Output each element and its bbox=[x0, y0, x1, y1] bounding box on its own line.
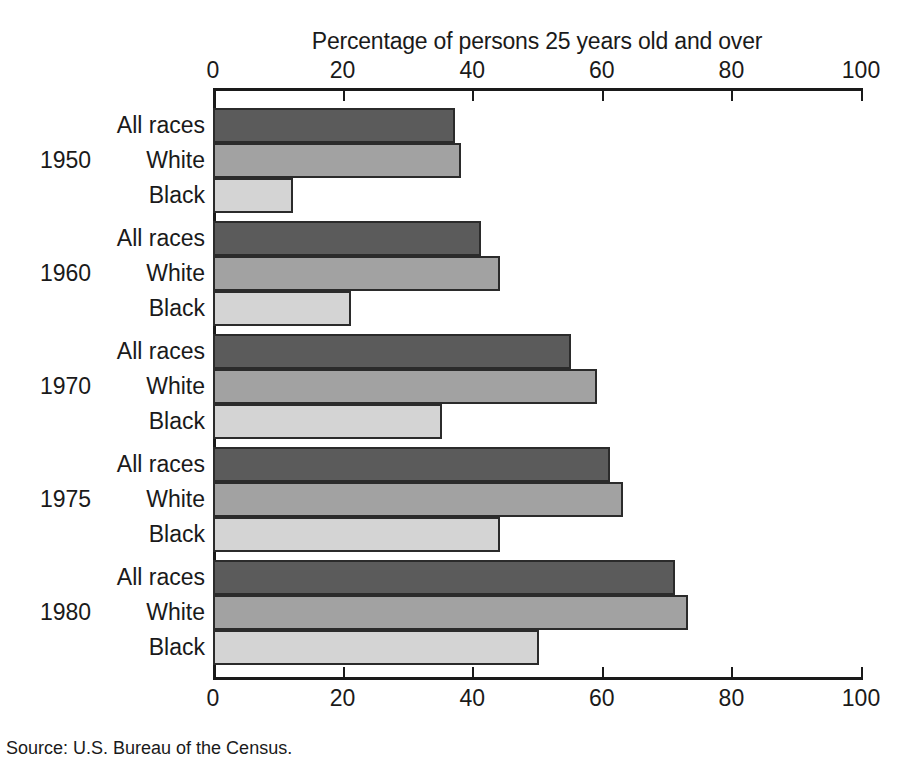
bar-1950-all bbox=[213, 108, 455, 143]
tickmark-bottom-100 bbox=[861, 667, 863, 680]
year-label-1970: 1970 bbox=[40, 373, 150, 400]
bar-1980-white bbox=[213, 595, 688, 630]
series-label-1960-all: All races bbox=[5, 225, 205, 252]
bar-1980-all bbox=[213, 560, 675, 595]
x-tick-label-bottom-0: 0 bbox=[207, 685, 220, 712]
axis-line-bottom bbox=[213, 677, 861, 680]
x-tick-label-top-80: 80 bbox=[719, 57, 745, 84]
x-tick-label-bottom-60: 60 bbox=[589, 685, 615, 712]
series-label-1950-all: All races bbox=[5, 112, 205, 139]
plot-area bbox=[213, 88, 861, 680]
year-label-1980: 1980 bbox=[40, 599, 150, 626]
year-label-1960: 1960 bbox=[40, 260, 150, 287]
tickmark-top-40 bbox=[472, 88, 474, 101]
x-tick-label-top-40: 40 bbox=[459, 57, 485, 84]
tickmark-top-80 bbox=[731, 88, 733, 101]
tickmark-top-60 bbox=[602, 88, 604, 101]
bar-1950-white bbox=[213, 143, 461, 178]
bar-1970-all bbox=[213, 334, 571, 369]
x-tick-label-bottom-20: 20 bbox=[330, 685, 356, 712]
bar-1950-black bbox=[213, 178, 293, 213]
bar-1970-black bbox=[213, 404, 442, 439]
tickmark-bottom-60 bbox=[602, 667, 604, 680]
source-note: Source: U.S. Bureau of the Census. bbox=[6, 738, 292, 759]
axis-line-top bbox=[213, 88, 861, 91]
bar-1970-white bbox=[213, 369, 597, 404]
x-tick-label-top-20: 20 bbox=[330, 57, 356, 84]
x-tick-label-top-0: 0 bbox=[207, 57, 220, 84]
bar-1975-all bbox=[213, 447, 610, 482]
series-label-1980-black: Black bbox=[5, 634, 205, 661]
tickmark-top-100 bbox=[861, 88, 863, 101]
bar-1975-black bbox=[213, 517, 500, 552]
x-axis-tick-labels-top: 020406080100 bbox=[0, 57, 920, 83]
bar-1960-all bbox=[213, 221, 481, 256]
bar-1960-white bbox=[213, 256, 500, 291]
tickmark-bottom-20 bbox=[343, 667, 345, 680]
series-label-1980-all: All races bbox=[5, 564, 205, 591]
series-label-1960-black: Black bbox=[5, 295, 205, 322]
year-label-1975: 1975 bbox=[40, 486, 150, 513]
x-axis-title: Percentage of persons 25 years old and o… bbox=[213, 28, 861, 55]
x-tick-label-bottom-100: 100 bbox=[842, 685, 880, 712]
chart-figure: Percentage of persons 25 years old and o… bbox=[0, 0, 920, 775]
tickmark-bottom-80 bbox=[731, 667, 733, 680]
x-axis-tick-labels-bottom: 020406080100 bbox=[0, 685, 920, 711]
series-label-1970-black: Black bbox=[5, 408, 205, 435]
series-label-1950-black: Black bbox=[5, 182, 205, 209]
tickmark-bottom-40 bbox=[472, 667, 474, 680]
year-label-1950: 1950 bbox=[40, 147, 150, 174]
bar-1960-black bbox=[213, 291, 351, 326]
series-label-1975-black: Black bbox=[5, 521, 205, 548]
series-label-1970-all: All races bbox=[5, 338, 205, 365]
bar-1975-white bbox=[213, 482, 623, 517]
bar-1980-black bbox=[213, 630, 539, 665]
x-tick-label-top-100: 100 bbox=[842, 57, 880, 84]
series-label-1975-all: All races bbox=[5, 451, 205, 478]
x-tick-label-bottom-40: 40 bbox=[459, 685, 485, 712]
x-tick-label-top-60: 60 bbox=[589, 57, 615, 84]
tickmark-top-20 bbox=[343, 88, 345, 101]
x-tick-label-bottom-80: 80 bbox=[719, 685, 745, 712]
